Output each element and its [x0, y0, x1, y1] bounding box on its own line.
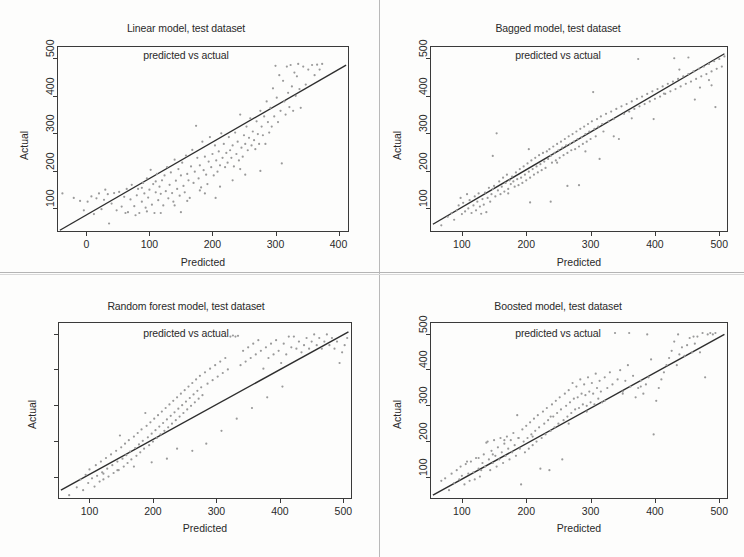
x-tick-label: 200: [517, 238, 535, 250]
x-axis-title-bagged: Predicted: [430, 256, 728, 268]
scatter-point: [541, 437, 543, 439]
scatter-point: [589, 401, 591, 403]
scatter-point: [494, 195, 496, 197]
scatter-point: [273, 115, 275, 117]
scatter-point: [260, 350, 262, 352]
scatter-point: [485, 211, 487, 213]
scatter-point: [474, 195, 476, 197]
scatter-point: [483, 204, 485, 206]
x-tick-mark: [719, 499, 720, 503]
scatter-point: [710, 84, 712, 86]
scatter-point: [146, 425, 148, 427]
scatter-point: [229, 149, 231, 151]
scatter-point: [237, 335, 239, 337]
scatter-point: [96, 475, 98, 477]
scatter-point: [681, 346, 683, 348]
scatter-point: [210, 166, 212, 168]
scatter-point: [326, 333, 328, 335]
scatter-point: [311, 64, 313, 66]
scatter-point: [551, 403, 553, 405]
scatter-point: [475, 209, 477, 211]
scatter-point: [198, 398, 200, 400]
scatter-point: [562, 154, 564, 156]
scatter-point: [642, 393, 644, 395]
scatter-point: [159, 433, 161, 435]
scatter-point: [604, 400, 606, 402]
scatter-point: [158, 186, 160, 188]
scatter-point: [525, 425, 527, 427]
scatter-point: [505, 455, 507, 457]
scatter-point: [336, 340, 338, 342]
scatter-point: [543, 160, 545, 162]
identity-line: [61, 332, 349, 490]
scatter-point: [602, 130, 604, 132]
scatter-point: [151, 461, 153, 463]
scatter-point: [195, 378, 197, 380]
scatter-point: [707, 333, 709, 335]
scatter-point: [180, 174, 182, 176]
scatter-point: [469, 199, 471, 201]
scatter-point: [448, 489, 450, 491]
scatter-points: [440, 55, 725, 226]
scatter-point: [341, 351, 343, 353]
scatter-point: [686, 344, 688, 346]
scatter-point: [529, 421, 531, 423]
scatter-point: [586, 405, 588, 407]
scatter-point: [290, 64, 292, 66]
scatter-point: [597, 398, 599, 400]
scatter-point: [245, 126, 247, 128]
scatter-point: [592, 393, 594, 395]
y-tick-mark: [53, 96, 57, 97]
scatter-point: [271, 126, 273, 128]
y-axis-title-random-forest: Actual: [26, 400, 38, 429]
scatter-point: [191, 149, 193, 151]
scatter-point: [645, 383, 647, 385]
scatter-points: [440, 332, 716, 491]
scatter-point: [587, 123, 589, 125]
scatter-point: [172, 400, 174, 402]
scatter-point: [462, 202, 464, 204]
scatter-point: [573, 141, 575, 143]
scatter-point: [466, 460, 468, 462]
scatter-point: [225, 152, 227, 154]
scatter-point: [701, 332, 703, 334]
scatter-point: [155, 191, 157, 193]
scatter-point: [470, 212, 472, 214]
scatter-point: [582, 403, 584, 405]
scatter-point: [168, 403, 170, 405]
scatter-point: [532, 444, 534, 446]
scatter-point: [87, 482, 89, 484]
scatter-point: [98, 192, 100, 194]
scatter-point: [138, 443, 140, 445]
scatter-point: [515, 455, 517, 457]
x-tick-mark: [462, 499, 463, 503]
scatter-point: [200, 386, 202, 388]
scatter-point: [82, 489, 84, 491]
scatter-point: [450, 212, 452, 214]
scatter-point: [209, 368, 211, 370]
x-tick-label: 400: [646, 238, 664, 250]
x-tick-label: 400: [646, 505, 664, 517]
scatter-point: [557, 149, 559, 151]
y-tick-mark: [426, 133, 430, 134]
scatter-point: [195, 125, 197, 127]
scatter-point: [328, 344, 330, 346]
scatter-point: [440, 224, 442, 226]
scatter-point: [651, 90, 653, 92]
scatter-point: [153, 418, 155, 420]
scatter-point: [514, 444, 516, 446]
scatter-point: [316, 344, 318, 346]
scatter-point: [277, 121, 279, 123]
y-tick-mark: [426, 334, 430, 335]
scatter-point: [223, 143, 225, 145]
scatter-point: [560, 408, 562, 410]
chart-title-line1: Bagged model, test dataset: [495, 22, 620, 34]
scatter-point: [232, 334, 234, 336]
scatter-point: [444, 477, 446, 479]
scatter-point: [613, 135, 615, 137]
scatter-point: [498, 180, 500, 182]
scatter-point: [510, 183, 512, 185]
scatter-point: [161, 410, 163, 412]
x-tick-mark: [149, 232, 150, 236]
scatter-point: [269, 107, 271, 109]
